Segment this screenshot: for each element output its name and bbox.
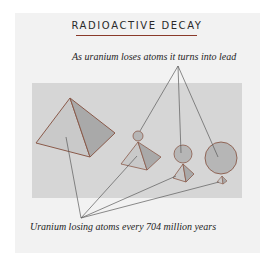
uranium-pyramid-small	[173, 164, 194, 182]
uranium-pyramid-large	[36, 98, 115, 157]
half-life-label: Uranium losing atoms every 704 million y…	[30, 221, 216, 232]
uranium-pyramid-tiny	[217, 176, 227, 184]
top-leader-lines	[140, 66, 218, 157]
lead-sphere-large	[205, 142, 237, 174]
uranium-pyramid-medium	[121, 142, 161, 170]
lead-sphere-small	[133, 131, 143, 141]
lead-transformation-label: As uranium loses atoms it turns into lea…	[72, 51, 236, 62]
lead-sphere-medium	[174, 145, 192, 163]
